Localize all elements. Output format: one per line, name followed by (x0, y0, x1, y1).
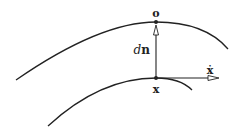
diagram-canvas: o x dn ẋ (0, 0, 243, 131)
normal-vector-arrowhead-icon (154, 25, 159, 35)
point-o-label: o (152, 7, 159, 20)
point-x-dot (154, 76, 158, 80)
upper-curve (16, 22, 228, 80)
normal-vector-label-n: n (141, 43, 150, 57)
point-o-dot (154, 20, 158, 24)
lower-curve (48, 78, 192, 126)
velocity-vector-label: ẋ (207, 64, 214, 77)
point-x-label: x (153, 83, 160, 96)
normal-vector-label: dn (134, 43, 151, 57)
